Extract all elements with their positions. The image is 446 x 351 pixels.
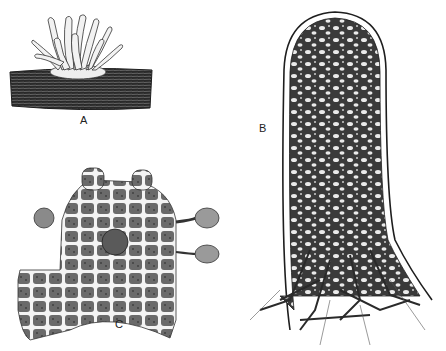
panel-a: A xyxy=(0,0,160,130)
panel-b-label: B xyxy=(259,122,266,134)
panel-c-label: C xyxy=(115,318,123,330)
panel-a-label: A xyxy=(80,114,87,126)
panel-a-illustration xyxy=(0,0,160,130)
panel-b: B xyxy=(220,0,446,351)
figure: A xyxy=(0,0,446,351)
panel-c: C xyxy=(0,160,240,351)
panel-b-illustration xyxy=(220,0,446,351)
